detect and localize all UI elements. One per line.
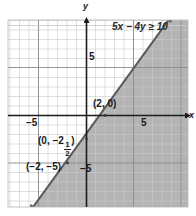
y-tick-label-5: 5 — [89, 52, 95, 62]
graph-figure: 5x − 4y ≥ 10 x y −5 5 5 −5 (2, 0) (0, −2… — [0, 0, 196, 216]
y-tick-label-neg5: −5 — [80, 164, 91, 174]
point-label-y-intercept: (0, −212) — [38, 136, 75, 157]
y-axis-name-label: y — [83, 2, 88, 11]
fraction-denominator: 2 — [64, 150, 70, 157]
point-label-y-intercept-prefix: (0, −2 — [38, 135, 64, 146]
x-tick-label-5: 5 — [141, 118, 147, 128]
x-axis-name-label: x — [189, 111, 194, 120]
point-label-y-intercept-suffix: ) — [71, 135, 74, 146]
inequality-text: 5x − 4y ≥ 10 — [112, 21, 168, 32]
point-marker-x-intercept — [104, 114, 107, 117]
point-label-third: (−2, −5) — [26, 162, 61, 172]
point-label-x-intercept: (2, 0) — [93, 99, 116, 109]
point-marker-y-intercept — [85, 138, 88, 141]
mixed-number-fraction: 12 — [64, 141, 70, 157]
x-tick-label-neg5: −5 — [26, 118, 37, 128]
point-marker-third — [66, 162, 69, 165]
inequality-label: 5x − 4y ≥ 10 — [112, 22, 168, 32]
